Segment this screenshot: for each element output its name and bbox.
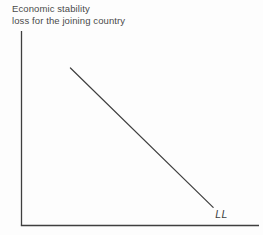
economic-stability-loss-figure: Economic stability loss for the joining … [0,0,263,235]
y-axis-title-line1: Economic stability [12,3,125,15]
chart-canvas [0,0,263,235]
ll-curve-label: LL [215,208,228,220]
y-axis-title: Economic stability loss for the joining … [12,3,125,27]
ll-curve [70,68,213,207]
y-axis-title-line2: loss for the joining country [12,15,125,27]
